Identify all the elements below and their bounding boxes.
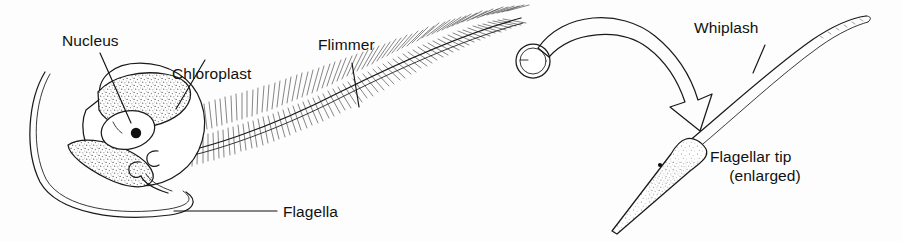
label-flagellar-tip-line2: (enlarged) <box>729 167 801 184</box>
flagellar-tip <box>605 132 715 238</box>
magnifier-circle <box>516 44 550 78</box>
label-flagellar-tip-line1: Flagellar tip <box>710 148 791 165</box>
label-whiplash: Whiplash <box>694 19 759 36</box>
flimmer-hairs <box>143 5 529 174</box>
leader-whiplash <box>753 45 765 73</box>
magnify-arrow <box>538 18 712 131</box>
nucleolus <box>131 128 141 138</box>
label-flagella: Flagella <box>283 203 338 220</box>
label-nucleus: Nucleus <box>62 32 119 49</box>
label-chloroplast: Chloroplast <box>172 65 252 82</box>
tip-dot <box>658 163 662 167</box>
flagellate-diagram: Nucleus Chloroplast Flimmer Flagella <box>0 0 902 241</box>
label-flimmer: Flimmer <box>318 36 375 53</box>
